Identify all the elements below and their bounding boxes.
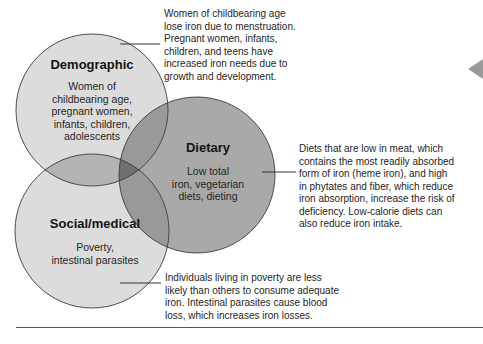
body-social-medical: Poverty, intestinal parasites (30, 241, 160, 266)
label-demographic: Demographic Women of childbearing age, p… (32, 57, 152, 143)
left-arrow-icon[interactable] (468, 59, 483, 79)
label-dietary: Dietary Low total iron, vegetarian diets… (158, 140, 258, 203)
bottom-divider (16, 327, 483, 328)
title-demographic: Demographic (32, 57, 152, 72)
callout-dietary: Diets that are low in meat, which contai… (299, 143, 483, 231)
body-demographic: Women of childbearing age, pregnant wome… (32, 80, 152, 143)
label-social-medical: Social/medical Poverty, intestinal paras… (30, 216, 160, 266)
title-social-medical: Social/medical (30, 216, 160, 231)
callout-social-medical: Individuals living in poverty are less l… (165, 272, 365, 322)
callout-demographic: Women of childbearing age lose iron due … (164, 8, 364, 83)
body-dietary: Low total iron, vegetarian diets, dietin… (158, 165, 258, 203)
title-dietary: Dietary (158, 140, 258, 155)
